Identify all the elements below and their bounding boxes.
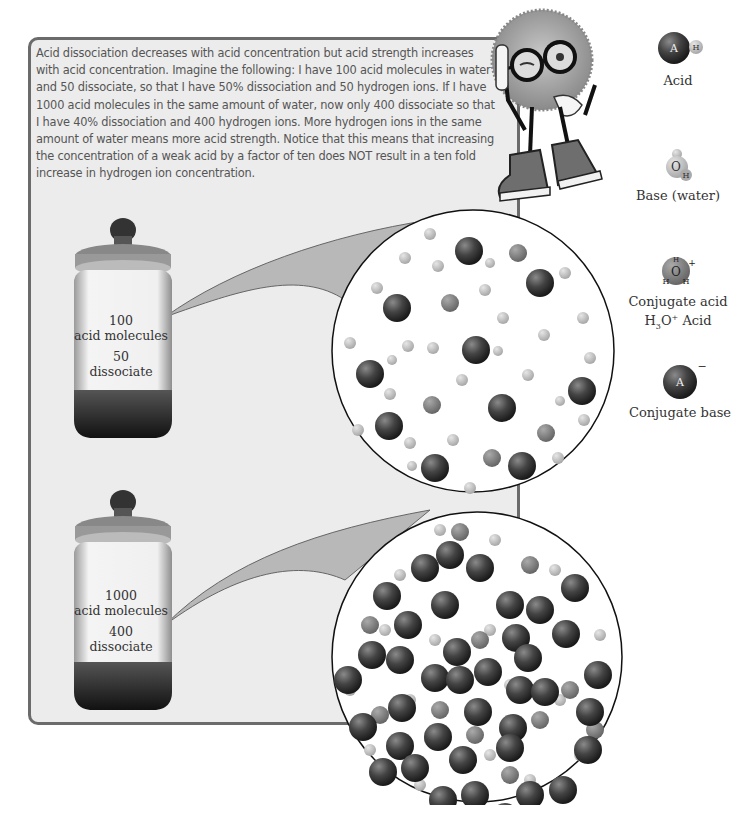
legend-acid-label: Acid: [628, 73, 728, 88]
svg-text:+: +: [688, 258, 696, 268]
jar-dissociated-label: dissociate: [66, 639, 176, 654]
jar-dissociated-label: dissociate: [66, 364, 176, 379]
jar-100-molecules: 100 acid molecules 50 dissociate: [66, 210, 176, 450]
legend-conjugate-base: A − Conjugate base: [624, 362, 736, 420]
svg-text:O: O: [671, 160, 681, 174]
acid-molecule-icon: A H: [628, 30, 728, 70]
svg-text:H: H: [683, 277, 690, 286]
svg-text:H: H: [683, 171, 690, 180]
svg-text:A: A: [675, 376, 685, 389]
svg-text:O: O: [671, 265, 681, 279]
conjugate-base-icon: A −: [624, 362, 736, 402]
svg-text:A: A: [669, 42, 679, 55]
legend-base-label: Base (water): [622, 188, 734, 203]
jar-1000-molecules: 1000 acid molecules 400 dissociate: [66, 482, 176, 722]
jar-molecule-count: 100: [66, 313, 176, 328]
water-molecule-icon: O H: [622, 147, 734, 185]
legend-conjugate-acid: O H H H + Conjugate acid H3O+ Acid: [622, 253, 734, 331]
legend-conjugate-acid-label: Conjugate acid: [622, 294, 734, 309]
jar-dissociated-count: 50: [66, 349, 176, 364]
legend-conjugate-acid-formula: H3O+ Acid: [622, 313, 734, 331]
jar-dissociated-count: 400: [66, 624, 176, 639]
legend-base-water: O H Base (water): [622, 147, 734, 203]
hydronium-icon: O H H H +: [622, 253, 734, 291]
svg-text:H: H: [663, 277, 670, 286]
jar-molecule-label: acid molecules: [66, 603, 176, 618]
jar-molecule-label: acid molecules: [66, 328, 176, 343]
legend-acid: A H Acid: [628, 30, 728, 88]
magnified-view-concentrated: [330, 510, 625, 805]
legend-conjugate-base-label: Conjugate base: [624, 405, 736, 420]
svg-text:H: H: [693, 43, 700, 52]
jar-molecule-count: 1000: [66, 588, 176, 603]
magnified-view-dilute: [330, 208, 620, 498]
svg-text:H: H: [673, 256, 679, 264]
svg-text:−: −: [697, 362, 706, 373]
